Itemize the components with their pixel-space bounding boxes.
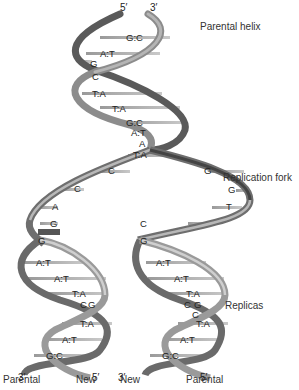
left-replica-base: G [88, 300, 95, 310]
left-replica-pair: A:T [36, 258, 51, 268]
base-pair: A:T [131, 128, 146, 138]
base-pair: A:T [100, 49, 115, 59]
fork-right-base: G [140, 236, 147, 246]
dna-replication-diagram: 5′ 3′ 3′ 5′ 3′ 5′ Parental helix Replica… [0, 0, 299, 390]
bottom-label-parental-left: Parental [3, 374, 40, 385]
right-replica-pair: A:T [174, 274, 189, 284]
bottom-label-new-right: New [120, 374, 140, 385]
left-replica-pair: A:T [62, 335, 77, 345]
base: A [139, 139, 145, 149]
left-replica-pair: A:T [54, 274, 69, 284]
base-pair: T:A [112, 104, 126, 114]
fork-left-base: A [52, 202, 58, 212]
fork-left-base: G [38, 236, 45, 246]
left-replica-pair: T:A [72, 289, 86, 299]
replicas-label: Replicas [225, 300, 263, 311]
fork-right-base: C [140, 219, 147, 229]
left-replica-pair: T:A [80, 319, 94, 329]
right-replica-strands [136, 240, 225, 378]
fork-right-base: G [204, 166, 211, 176]
bottom-label-parental-right: Parental [186, 374, 223, 385]
left-replica-base: C [80, 300, 87, 310]
fork-left-base: G [50, 219, 57, 229]
base-pair: T:A [133, 150, 147, 160]
right-replica-pair: A:T [156, 258, 171, 268]
base: C [92, 72, 99, 82]
fork-left-base: C [108, 166, 115, 176]
fork-left-arm [29, 150, 150, 244]
left-replica-pair: G:C [46, 351, 63, 361]
fork-right-base: T [226, 202, 232, 212]
fork-right-base: G [228, 185, 235, 195]
base: G [90, 59, 97, 69]
helix-ribbons [0, 0, 299, 390]
base-pair: G:C [126, 33, 143, 43]
bottom-label-new-left: New [76, 374, 96, 385]
right-replica-pair: A:T [180, 335, 195, 345]
base-pair: T:A [92, 89, 106, 99]
right-replica-pair: T:A [196, 319, 210, 329]
parental-helix-label: Parental helix [200, 21, 261, 32]
right-replica-pair: T:A [186, 289, 200, 299]
top-5-prime-label: 5′ [120, 2, 127, 13]
fork-left-base: C [74, 184, 81, 194]
fork-right-arm [138, 150, 250, 240]
replication-fork-label: Replication fork [223, 172, 292, 183]
right-replica-base: C [184, 300, 191, 310]
right-replica-pair: G:C [162, 351, 179, 361]
top-3-prime-label: 3′ [150, 2, 157, 13]
